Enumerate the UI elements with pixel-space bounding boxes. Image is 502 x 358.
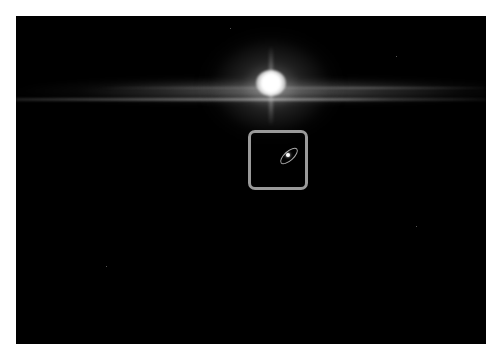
bright-star — [256, 70, 286, 96]
highlight-box — [248, 130, 308, 190]
faint-star — [230, 28, 231, 29]
faint-star — [416, 226, 417, 227]
astronomical-image — [16, 16, 486, 344]
faint-star — [106, 266, 107, 267]
faint-star — [396, 56, 397, 57]
galaxy-core — [286, 153, 290, 157]
